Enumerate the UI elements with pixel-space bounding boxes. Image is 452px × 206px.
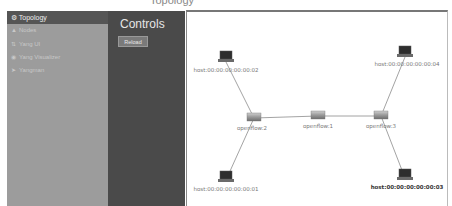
node-label-openflow-1: openflow:1 — [303, 123, 333, 129]
link — [254, 116, 318, 118]
node-label-host-02: host:00:00:00:00:00:02 — [194, 67, 259, 73]
laptop-icon[interactable] — [397, 46, 413, 57]
topology-graph — [0, 0, 452, 206]
node-label-host-04: host:00:00:00:00:00:04 — [375, 61, 440, 67]
switch-icon[interactable] — [247, 113, 261, 121]
node-label-host-03: host:00:00:00:00:00:03 — [371, 184, 444, 190]
switch-icon[interactable] — [374, 111, 388, 119]
laptop-icon[interactable] — [218, 51, 234, 62]
node-label-openflow-2: openflow:2 — [237, 125, 267, 131]
laptop-icon[interactable] — [397, 169, 413, 180]
laptop-icon[interactable] — [218, 171, 234, 182]
node-label-host-01: host:00:00:00:00:00:01 — [194, 186, 259, 192]
switch-icon[interactable] — [311, 111, 325, 119]
node-label-openflow-3: openflow:3 — [366, 123, 396, 129]
